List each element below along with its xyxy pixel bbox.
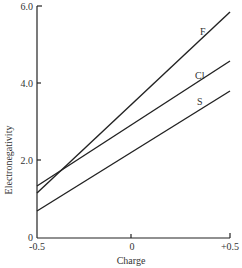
series-line-s xyxy=(37,91,230,211)
x-tick-label: +0.5 xyxy=(221,241,239,252)
y-axis-title: Electronegativity xyxy=(3,126,14,195)
y-tick-label: 2.0 xyxy=(21,155,34,166)
y-tick-label: 6.0 xyxy=(21,1,34,12)
x-tick-label: -0.5 xyxy=(29,241,45,252)
electronegativity-chart: 6.0 4.0 2.0 0 -0.5 0 +0.5 Charge Electro… xyxy=(0,0,242,268)
series-label-cl: Cl xyxy=(195,70,205,81)
series-label-f: F xyxy=(200,26,206,37)
x-axis-title: Charge xyxy=(117,255,146,266)
series-label-s: S xyxy=(197,96,203,107)
x-tick-label: 0 xyxy=(130,241,135,252)
y-tick-label: 4.0 xyxy=(21,78,34,89)
